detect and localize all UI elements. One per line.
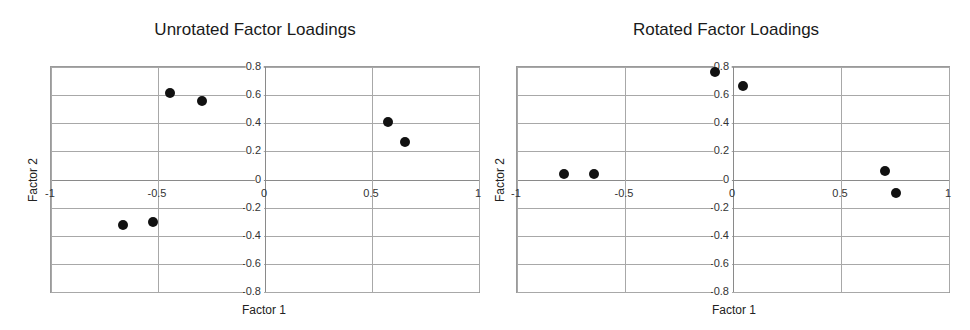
data-point — [559, 169, 569, 179]
gridline-vertical — [517, 67, 518, 292]
data-point — [880, 166, 890, 176]
y-axis-label: Factor 2 — [493, 158, 507, 202]
y-tick-label: -0.8 — [710, 285, 732, 297]
y-tick-label: 0.6 — [714, 88, 732, 100]
y-tick-label: -0.4 — [710, 229, 732, 241]
y-tick-label: 0.4 — [714, 116, 732, 128]
y-axis-line — [733, 67, 734, 292]
x-tick-label: -1 — [511, 187, 521, 199]
data-point — [589, 169, 599, 179]
y-tick-label: 0 — [723, 173, 732, 185]
x-axis-label: Factor 1 — [712, 303, 756, 317]
data-point — [891, 188, 901, 198]
plot-area — [516, 66, 950, 293]
gridline-vertical — [949, 67, 950, 292]
gridline-vertical — [625, 67, 626, 292]
y-tick-label: -0.6 — [710, 257, 732, 269]
y-tick-label: 0.2 — [714, 144, 732, 156]
chart-title: Rotated Factor Loadings — [633, 20, 819, 40]
data-point — [710, 67, 720, 77]
x-tick-label: 1 — [945, 187, 951, 199]
rotated-chart: Rotated Factor Loadings0.80.60.40.20-0.2… — [0, 0, 970, 330]
y-tick-label: -0.2 — [710, 201, 732, 213]
gridline-vertical — [841, 67, 842, 292]
data-point — [738, 81, 748, 91]
x-tick-label: 0.5 — [832, 187, 847, 199]
x-tick-label: 0 — [729, 187, 735, 199]
gridline-horizontal — [517, 292, 949, 293]
x-tick-label: -0.5 — [615, 187, 634, 199]
